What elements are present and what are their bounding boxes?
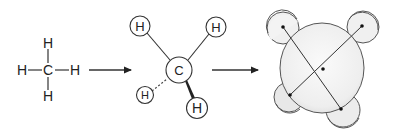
atom-carbon-label: C [174,63,183,78]
atom-carbon: C [43,62,53,78]
atom-hydrogen-label-bottom-right: H [192,100,202,116]
bond-top-right [188,34,209,60]
nucleus-dot [339,107,343,111]
atom-hydrogen-left: H [17,62,27,78]
bond-wedge-front [185,80,195,99]
ball-and-stick-model: C H H H H [130,16,226,119]
methane-diagram: C H H H H C H H H H [0,0,394,134]
bond-dashed-back [152,79,167,91]
nucleus-dot [360,24,364,28]
atom-hydrogen-label-top-left: H [135,19,144,34]
structural-formula: C H H H H [17,35,80,104]
space-filling-model [266,10,379,128]
atom-hydrogen-bottom: H [43,88,53,104]
atom-hydrogen-top: H [43,35,53,51]
bond-top-left [147,33,170,60]
nucleus-dot [281,25,285,29]
atom-hydrogen-right: H [70,62,80,78]
atom-hydrogen-label-top-right: H [211,20,220,35]
nucleus-dot [288,93,292,97]
nucleus-dot-carbon [321,67,325,71]
atom-hydrogen-label-bottom-left: H [141,89,149,101]
